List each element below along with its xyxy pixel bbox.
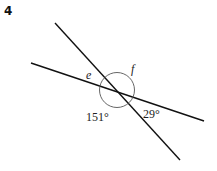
label-e: e	[86, 68, 92, 82]
intersecting-lines-diagram: e f 151° 29°	[0, 0, 217, 171]
label-151: 151°	[86, 110, 109, 124]
line-shallow	[31, 63, 204, 121]
label-29: 29°	[143, 107, 160, 121]
label-f: f	[131, 62, 136, 76]
